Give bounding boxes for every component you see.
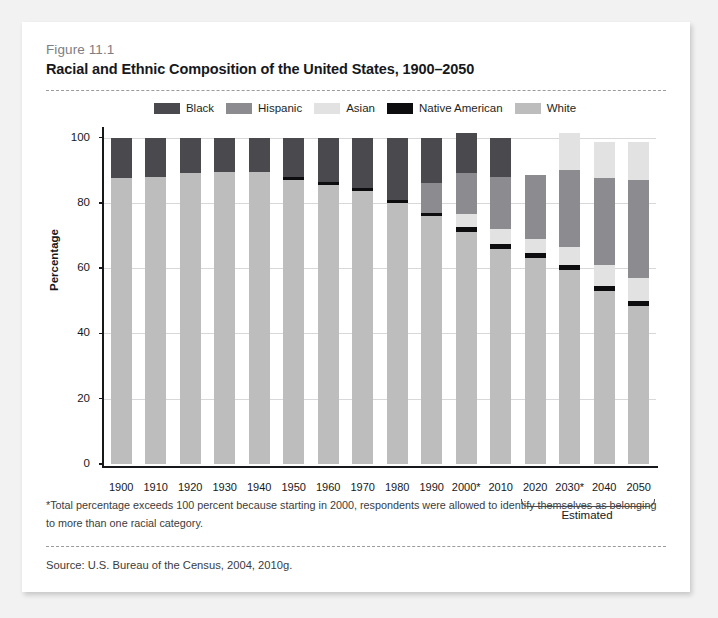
bar bbox=[525, 175, 546, 464]
bar-segment bbox=[490, 249, 511, 464]
bar-segment bbox=[559, 133, 580, 171]
bar-segment bbox=[318, 138, 339, 182]
legend-item: Black bbox=[154, 102, 214, 114]
chart-area: Percentage 02040608010019001910192019301… bbox=[46, 123, 666, 493]
bar-segment bbox=[180, 173, 201, 464]
bar-segment bbox=[594, 291, 615, 464]
bar-segment bbox=[318, 185, 339, 464]
figure-card: Figure 11.1 Racial and Ethnic Compositio… bbox=[22, 22, 690, 592]
bar-segment bbox=[559, 170, 580, 247]
bar-segment bbox=[145, 177, 166, 464]
y-tick-label: 100 bbox=[60, 131, 90, 143]
bar-segment bbox=[318, 182, 339, 185]
bar-segment bbox=[145, 138, 166, 177]
legend-item: Asian bbox=[314, 102, 375, 114]
bar-segment bbox=[525, 239, 546, 254]
legend-label: Asian bbox=[346, 102, 375, 114]
bar-segment bbox=[628, 301, 649, 306]
bar-segment bbox=[525, 258, 546, 464]
legend-item: Hispanic bbox=[226, 102, 302, 114]
page-background: Figure 11.1 Racial and Ethnic Compositio… bbox=[0, 0, 718, 618]
y-tick-label: 40 bbox=[60, 326, 90, 338]
bar bbox=[456, 133, 477, 464]
y-axis-line bbox=[102, 127, 104, 468]
bar-segment bbox=[249, 172, 270, 464]
bar bbox=[628, 142, 649, 464]
bar-segment bbox=[214, 138, 235, 172]
bar-segment bbox=[111, 178, 132, 464]
estimated-label: Estimated bbox=[521, 509, 654, 521]
bar-segment bbox=[283, 180, 304, 464]
bar bbox=[594, 142, 615, 464]
figure-inner: Figure 11.1 Racial and Ethnic Compositio… bbox=[46, 42, 666, 572]
bar-segment bbox=[594, 265, 615, 286]
bar-segment bbox=[456, 227, 477, 232]
bar-segment bbox=[456, 133, 477, 174]
divider-top bbox=[46, 90, 666, 91]
bar bbox=[180, 138, 201, 464]
bar bbox=[421, 138, 442, 464]
bar-segment bbox=[628, 278, 649, 301]
divider-bottom bbox=[46, 546, 666, 547]
chart-legend: BlackHispanicAsianNative AmericanWhite bbox=[46, 102, 666, 114]
bar-segment bbox=[111, 138, 132, 179]
bar-segment bbox=[628, 142, 649, 180]
legend-label: Black bbox=[186, 102, 214, 114]
bar-segment bbox=[249, 138, 270, 172]
bar-segment bbox=[421, 213, 442, 216]
bar-segment bbox=[456, 232, 477, 464]
bar-segment bbox=[594, 286, 615, 291]
source-text: Source: U.S. Bureau of the Census, 2004,… bbox=[46, 559, 666, 571]
legend-swatch bbox=[387, 103, 413, 114]
bar-segment bbox=[283, 138, 304, 177]
bar-segment bbox=[421, 183, 442, 212]
y-axis-title: Percentage bbox=[48, 229, 60, 291]
figure-title: Racial and Ethnic Composition of the Uni… bbox=[46, 61, 666, 77]
bar-segment bbox=[559, 265, 580, 270]
y-tick-label: 0 bbox=[60, 457, 90, 469]
bar-segment bbox=[421, 216, 442, 464]
bar-segment bbox=[490, 229, 511, 244]
bar-segment bbox=[283, 177, 304, 180]
bar-segment bbox=[490, 244, 511, 249]
legend-label: White bbox=[547, 102, 576, 114]
bar bbox=[145, 138, 166, 464]
bar-segment bbox=[490, 177, 511, 229]
legend-swatch bbox=[515, 103, 541, 114]
bar bbox=[559, 133, 580, 464]
bar-segment bbox=[525, 253, 546, 258]
bar-segment bbox=[456, 214, 477, 227]
legend-label: Native American bbox=[419, 102, 503, 114]
bar bbox=[490, 138, 511, 464]
bar-segment bbox=[387, 203, 408, 464]
y-tick-label: 60 bbox=[60, 261, 90, 273]
bar-segment bbox=[352, 138, 373, 189]
bar-segment bbox=[628, 306, 649, 464]
legend-swatch bbox=[154, 103, 180, 114]
x-tick-label: 2050 bbox=[615, 481, 663, 493]
bar bbox=[387, 138, 408, 464]
bar-segment bbox=[525, 175, 546, 239]
legend-swatch bbox=[314, 103, 340, 114]
y-tick-label: 80 bbox=[60, 196, 90, 208]
bar-segment bbox=[559, 270, 580, 464]
bar bbox=[111, 138, 132, 464]
x-axis-line bbox=[102, 466, 658, 468]
legend-item: Native American bbox=[387, 102, 503, 114]
bar-segment bbox=[594, 142, 615, 178]
figure-number: Figure 11.1 bbox=[46, 42, 666, 57]
bar bbox=[318, 138, 339, 464]
legend-item: White bbox=[515, 102, 576, 114]
bar-segment bbox=[490, 138, 511, 177]
bar-segment bbox=[387, 200, 408, 203]
bar-segment bbox=[352, 188, 373, 191]
bar bbox=[214, 138, 235, 464]
y-tick-label: 20 bbox=[60, 392, 90, 404]
bar-segment bbox=[214, 172, 235, 464]
estimated-bracket bbox=[521, 499, 656, 507]
bar-segment bbox=[456, 173, 477, 214]
bar bbox=[352, 138, 373, 464]
legend-label: Hispanic bbox=[258, 102, 302, 114]
bar bbox=[283, 138, 304, 464]
bar-segment bbox=[180, 138, 201, 174]
